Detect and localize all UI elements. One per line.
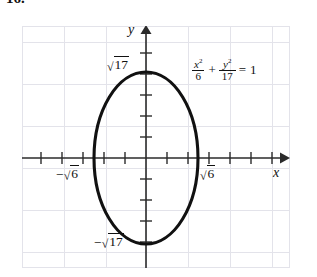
y-term-numerator: y2 — [220, 58, 234, 70]
radicand: 17 — [108, 233, 124, 249]
radicand: 17 — [114, 56, 130, 72]
ellipse-equation: x2 6 + y2 17 = 1 — [190, 58, 257, 83]
problem-number: 16. — [6, 0, 25, 7]
y-term-fraction: y2 17 — [219, 58, 236, 83]
x-term-denominator: 6 — [192, 70, 204, 83]
y-positive-intercept-label: √17 — [107, 58, 129, 74]
x-axis-label: x — [273, 165, 279, 181]
y-negative-intercept-label: −√17 — [94, 235, 124, 251]
y-axis-label: y — [128, 22, 134, 38]
radical-glyph: √ — [200, 169, 207, 183]
x-negative-intercept-label: −√6 — [56, 167, 79, 183]
minus-sign: − — [56, 167, 64, 182]
x-term-numerator: x2 — [191, 58, 205, 70]
x-exponent: 2 — [199, 57, 203, 65]
equals-sign: = — [239, 62, 246, 78]
x-axis-arrowhead — [280, 153, 290, 164]
radicand: 6 — [207, 165, 216, 181]
x-term-fraction: x2 6 — [191, 58, 205, 83]
plus-operator: + — [208, 62, 215, 78]
y-term-denominator: 17 — [219, 70, 236, 83]
y-axis-arrowhead — [141, 26, 152, 34]
y-exponent: 2 — [228, 57, 232, 65]
x-positive-intercept-label: √6 — [200, 167, 215, 183]
radicand: 6 — [70, 165, 79, 181]
right-hand-side: 1 — [250, 62, 257, 78]
radical-glyph: √ — [107, 60, 114, 74]
minus-sign: − — [94, 235, 102, 250]
